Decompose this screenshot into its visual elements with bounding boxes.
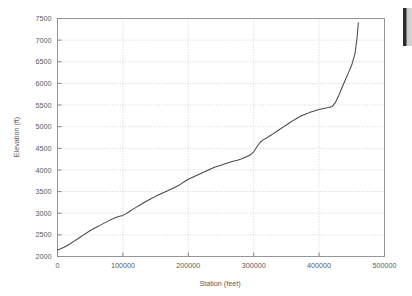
page-edge-artifact xyxy=(401,8,412,46)
y-tick-label: 3500 xyxy=(36,187,52,196)
y-tick-label: 3000 xyxy=(36,209,52,218)
y-tick-label: 6500 xyxy=(36,57,52,66)
y-tick-label: 2500 xyxy=(36,230,52,239)
y-tick-label: 4000 xyxy=(36,166,52,175)
x-axis-title: Station (feet) xyxy=(199,279,240,288)
y-axis-title: Elevation (ft) xyxy=(12,117,21,157)
y-tick-label: 7500 xyxy=(36,14,52,23)
y-tick-label: 5000 xyxy=(36,122,52,131)
x-tick-label: 300000 xyxy=(242,261,266,270)
x-tick-label: 100000 xyxy=(111,261,135,270)
y-tick-label: 4500 xyxy=(36,144,52,153)
y-tick-label: 2000 xyxy=(36,252,52,261)
x-tick-label: 500000 xyxy=(373,261,397,270)
y-tick-label: 7000 xyxy=(36,36,52,45)
elevation-profile-chart: 0100000200000300000400000500000 20002500… xyxy=(0,0,412,296)
x-tick-label: 0 xyxy=(56,261,60,270)
y-tick-label: 6000 xyxy=(36,79,52,88)
x-tick-label: 400000 xyxy=(307,261,331,270)
x-tick-label: 200000 xyxy=(176,261,200,270)
y-tick-label: 5500 xyxy=(36,101,52,110)
chart-figure: 0100000200000300000400000500000 20002500… xyxy=(0,0,412,296)
chart-background xyxy=(0,0,412,296)
